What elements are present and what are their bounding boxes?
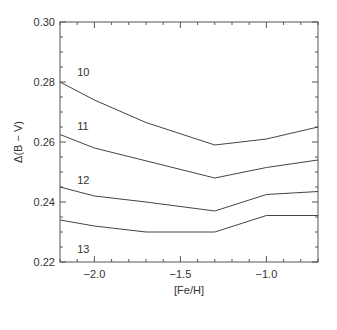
- series-label-11: 11: [77, 120, 88, 132]
- y-tick-label: 0.30: [34, 16, 55, 28]
- series-line-13: [60, 216, 318, 233]
- series-line-10: [60, 82, 318, 145]
- series-label-10: 10: [77, 66, 89, 78]
- series-label-12: 12: [77, 174, 89, 186]
- y-tick-label: 0.24: [34, 196, 55, 208]
- x-axis-ticks: −2.0−1.5−1.0: [60, 22, 318, 280]
- y-tick-label: 0.26: [34, 136, 55, 148]
- y-axis-label: Δ(B − V): [12, 121, 24, 163]
- y-tick-label: 0.28: [34, 76, 55, 88]
- x-axis-label: [Fe/H]: [174, 284, 204, 296]
- y-tick-label: 0.22: [34, 256, 55, 268]
- x-tick-label: −1.5: [170, 268, 192, 280]
- y-axis-ticks: 0.300.280.260.240.22: [34, 16, 318, 268]
- series-line-12: [60, 187, 318, 211]
- series-lines: [60, 82, 318, 232]
- x-tick-label: −2.0: [84, 268, 106, 280]
- x-tick-label: −1.0: [256, 268, 278, 280]
- series-line-11: [60, 135, 318, 179]
- chart: −2.0−1.5−1.0 0.300.280.260.240.22 101112…: [0, 0, 337, 330]
- series-label-13: 13: [77, 243, 89, 255]
